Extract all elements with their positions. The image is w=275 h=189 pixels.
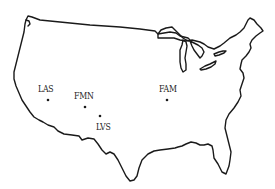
airport-dot-fam[interactable] [166,99,169,102]
lake-ontario [214,51,226,56]
airport-dot-lvs[interactable] [99,115,102,118]
airport-dot-las[interactable] [47,99,50,102]
airport-label-las: LAS [38,84,53,94]
airport-label-lvs: LVS [96,122,111,132]
us-map [0,0,275,189]
lake-erie [200,61,216,70]
puget-sound [26,20,30,26]
lake-michigan [180,40,187,72]
airport-label-fam: FAM [159,84,177,94]
airport-dot-fmn[interactable] [84,106,87,109]
us-outline [14,16,263,181]
airport-label-fmn: FMN [74,91,94,101]
